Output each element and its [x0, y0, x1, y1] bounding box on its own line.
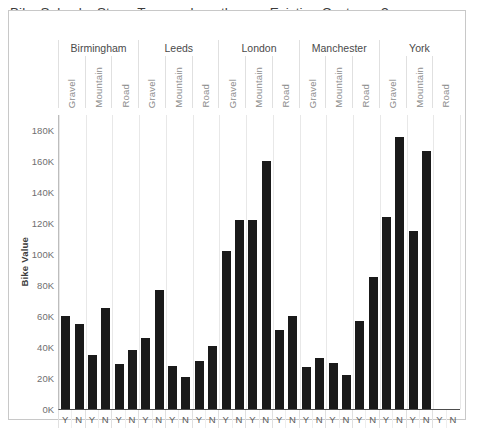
- bar[interactable]: [235, 220, 244, 409]
- bar[interactable]: [422, 151, 431, 409]
- type-header-birmingham-gravel[interactable]: Gravel: [58, 56, 85, 108]
- x-axis-tick-n[interactable]: N: [152, 410, 165, 428]
- bar[interactable]: [382, 217, 391, 409]
- x-axis-group: YN: [85, 410, 112, 428]
- bar-group-birmingham-road: [112, 115, 139, 409]
- bar[interactable]: [369, 277, 378, 409]
- bar-group-york-road: [433, 115, 460, 409]
- x-axis-tick-n[interactable]: N: [392, 410, 405, 428]
- store-header-manchester[interactable]: Manchester: [299, 40, 379, 56]
- bar[interactable]: [315, 358, 324, 409]
- gridline-vertical: [460, 115, 461, 409]
- bar[interactable]: [128, 350, 137, 409]
- x-axis-tick-y[interactable]: Y: [380, 410, 392, 428]
- type-header-leeds-road[interactable]: Road: [192, 56, 219, 108]
- x-axis-tick-n[interactable]: N: [232, 410, 245, 428]
- bar[interactable]: [101, 308, 110, 409]
- x-axis-tick-n[interactable]: N: [312, 410, 325, 428]
- bar[interactable]: [195, 361, 204, 409]
- x-axis-tick-y[interactable]: Y: [326, 410, 338, 428]
- bar[interactable]: [302, 367, 311, 409]
- x-axis-tick-n[interactable]: N: [178, 410, 191, 428]
- bar[interactable]: [181, 377, 190, 409]
- bar[interactable]: [409, 231, 418, 409]
- type-header-york-gravel[interactable]: Gravel: [379, 56, 406, 108]
- x-axis-tick-y[interactable]: Y: [193, 410, 205, 428]
- bar[interactable]: [342, 375, 351, 409]
- x-axis-tick-y[interactable]: Y: [166, 410, 178, 428]
- bar[interactable]: [288, 316, 297, 409]
- type-header-rotator: Road: [273, 56, 299, 108]
- x-axis-tick-y[interactable]: Y: [353, 410, 365, 428]
- x-axis-tick-n[interactable]: N: [365, 410, 378, 428]
- x-axis-tick-n[interactable]: N: [98, 410, 111, 428]
- store-header-leeds[interactable]: Leeds: [138, 40, 218, 56]
- type-header-rotator: Road: [112, 56, 138, 108]
- type-header-london-mountain[interactable]: Mountain: [245, 56, 272, 108]
- x-axis-tick-y[interactable]: Y: [139, 410, 151, 428]
- x-axis-tick-n[interactable]: N: [446, 410, 459, 428]
- x-axis-tick-y[interactable]: Y: [407, 410, 419, 428]
- x-axis-tick-y[interactable]: Y: [59, 410, 71, 428]
- x-axis-tick-n[interactable]: N: [125, 410, 138, 428]
- type-header-rotator: Gravel: [380, 56, 406, 108]
- bar[interactable]: [248, 220, 257, 409]
- type-header-birmingham-mountain[interactable]: Mountain: [85, 56, 112, 108]
- bar[interactable]: [355, 321, 364, 409]
- x-axis-tick-y[interactable]: Y: [112, 410, 124, 428]
- x-axis-tick-y[interactable]: Y: [433, 410, 445, 428]
- bar[interactable]: [141, 338, 150, 409]
- type-header-york-mountain[interactable]: Mountain: [406, 56, 433, 108]
- bar[interactable]: [275, 330, 284, 409]
- x-axis-tick-n[interactable]: N: [419, 410, 432, 428]
- type-header-london-road[interactable]: Road: [272, 56, 299, 108]
- type-header-label: Road: [361, 83, 371, 108]
- store-header-london[interactable]: London: [218, 40, 298, 56]
- x-axis-group: YN: [352, 410, 379, 428]
- x-axis-tick-y[interactable]: Y: [273, 410, 285, 428]
- store-header-york[interactable]: York: [379, 40, 459, 56]
- bar[interactable]: [75, 324, 84, 409]
- x-axis-group: YN: [379, 410, 406, 428]
- bar-group-manchester-gravel: [300, 115, 327, 409]
- bar[interactable]: [61, 316, 70, 409]
- bar[interactable]: [168, 366, 177, 409]
- type-header-rotator: Road: [433, 56, 459, 108]
- x-axis-tick-n[interactable]: N: [205, 410, 218, 428]
- type-header-birmingham-road[interactable]: Road: [111, 56, 138, 108]
- x-axis-tick-y[interactable]: Y: [219, 410, 231, 428]
- bar[interactable]: [395, 137, 404, 409]
- x-axis-tick-n[interactable]: N: [71, 410, 84, 428]
- type-header-label: Mountain: [334, 66, 344, 108]
- type-header-manchester-road[interactable]: Road: [352, 56, 379, 108]
- x-axis-tick-y[interactable]: Y: [246, 410, 258, 428]
- store-header-birmingham[interactable]: Birmingham: [58, 40, 138, 56]
- bar[interactable]: [115, 364, 124, 409]
- bar[interactable]: [329, 363, 338, 409]
- x-axis-group: YN: [111, 410, 138, 428]
- x-axis-group: YN: [58, 410, 85, 428]
- type-header-label: Gravel: [147, 78, 157, 108]
- type-header-leeds-gravel[interactable]: Gravel: [138, 56, 165, 108]
- bar[interactable]: [88, 355, 97, 409]
- x-axis-tick-n[interactable]: N: [285, 410, 298, 428]
- bar[interactable]: [222, 251, 231, 409]
- x-axis-group: YN: [325, 410, 352, 428]
- type-header-leeds-mountain[interactable]: Mountain: [165, 56, 192, 108]
- type-header-manchester-mountain[interactable]: Mountain: [325, 56, 352, 108]
- x-axis-tick-y[interactable]: Y: [300, 410, 312, 428]
- bar[interactable]: [208, 346, 217, 409]
- bar[interactable]: [262, 161, 271, 409]
- type-header-manchester-gravel[interactable]: Gravel: [299, 56, 326, 108]
- bar-group-london-mountain: [246, 115, 273, 409]
- x-axis-tick-n[interactable]: N: [339, 410, 352, 428]
- type-header-york-road[interactable]: Road: [432, 56, 459, 108]
- bar-group-manchester-mountain: [326, 115, 353, 409]
- x-axis-tick-n[interactable]: N: [259, 410, 272, 428]
- type-header-london-gravel[interactable]: Gravel: [218, 56, 245, 108]
- bar[interactable]: [155, 290, 164, 409]
- type-header-band: GravelMountainRoadGravelMountainRoadGrav…: [58, 56, 459, 108]
- x-axis-tick-y[interactable]: Y: [86, 410, 98, 428]
- type-header-label: Road: [281, 83, 291, 108]
- y-axis-tick: 0K: [42, 404, 54, 415]
